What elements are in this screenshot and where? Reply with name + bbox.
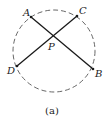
label-p: P [47, 41, 55, 52]
label-a: A [22, 7, 30, 18]
point-c-dot [76, 15, 79, 18]
point-b-dot [92, 68, 95, 71]
label-c: C [79, 5, 87, 16]
chord-ab [31, 17, 93, 69]
chord-cd [17, 16, 77, 66]
figure-caption: (a) [45, 105, 59, 116]
diagram-intersecting-chords: A C P D B (a) [0, 0, 104, 119]
point-d-dot [16, 65, 19, 68]
label-b: B [94, 68, 102, 79]
label-d: D [6, 65, 15, 76]
